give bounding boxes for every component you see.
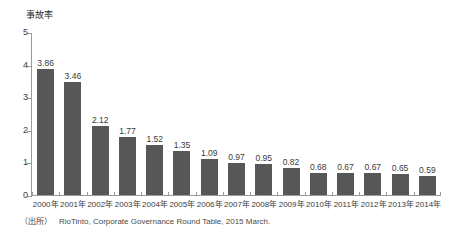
x-axis-tick-mark (114, 192, 115, 196)
x-axis-label: 2012年 (360, 199, 387, 210)
bar-value-label: 0.67 (365, 162, 382, 172)
source-text: RioTinto, Corporate Governance Round Tab… (59, 217, 270, 226)
bar (92, 126, 109, 195)
x-axis-label: 2008年 (251, 199, 278, 210)
x-axis-tick (87, 192, 114, 196)
x-axis-tick (196, 192, 223, 196)
bar-value-label: 0.95 (255, 153, 272, 163)
x-axis-tick (305, 192, 332, 196)
bar-value-label: 0.82 (283, 157, 300, 167)
bar-slot: 0.95 (250, 33, 277, 195)
bar-slot: 0.82 (277, 33, 304, 195)
bar-slot: 0.67 (332, 33, 359, 195)
bar-value-label: 1.35 (174, 140, 191, 150)
bar (37, 69, 54, 195)
x-axis-tick-mark (277, 192, 278, 196)
y-axis-tick-label: 0 (23, 190, 28, 201)
bar (283, 168, 300, 195)
y-axis-tick: 0 (31, 196, 36, 197)
x-axis-label: 2000年 (32, 199, 59, 210)
bar (201, 159, 218, 195)
x-axis-tick-mark (59, 192, 60, 196)
x-axis-tick (114, 192, 141, 196)
bar (119, 137, 136, 195)
x-axis-tick-mark (141, 192, 142, 196)
bar-value-label: 1.77 (119, 126, 136, 136)
y-axis-tick-label: 4 (23, 60, 28, 71)
x-axis-label: 2013年 (387, 199, 414, 210)
bar (228, 163, 245, 195)
bar-value-label: 1.09 (201, 148, 218, 158)
bar-value-label: 0.59 (419, 165, 436, 175)
bar-slot: 0.97 (223, 33, 250, 195)
bar-slot: 0.67 (359, 33, 386, 195)
x-axis-label: 2005年 (169, 199, 196, 210)
x-axis-tick (59, 192, 86, 196)
x-axis-tick (414, 192, 441, 196)
source-label: （出所） (20, 216, 52, 228)
source-note: （出所）RioTinto, Corporate Governance Round… (20, 216, 270, 228)
x-axis-tick-mark (332, 192, 333, 196)
x-axis-tick-mark (414, 192, 415, 196)
bar-slot: 3.46 (59, 33, 86, 195)
x-axis-tick-mark (250, 192, 251, 196)
plot-area: 543210 3.863.462.121.771.521.351.090.970… (31, 33, 441, 196)
y-axis-tick-label: 2 (23, 125, 28, 136)
x-axis-tick (386, 192, 413, 196)
bar (146, 145, 163, 195)
bar-slot: 0.68 (305, 33, 332, 195)
chart-screenshot: 事故率 543210 3.863.462.121.771.521.351.090… (0, 0, 449, 243)
x-axis-label: 2004年 (141, 199, 168, 210)
x-axis-label: 2014年 (415, 199, 442, 210)
bar-slot: 2.12 (87, 33, 114, 195)
y-axis-tick-label: 5 (23, 27, 28, 38)
x-axis-tick-mark (223, 192, 224, 196)
x-axis-tick-mark (87, 192, 88, 196)
x-axis-tick-mark (440, 192, 441, 196)
x-axis-labels: 2000年2001年2002年2003年2004年2005年2006年2007年… (32, 199, 442, 210)
bar-value-label: 1.52 (146, 134, 163, 144)
x-axis-tick (277, 192, 304, 196)
bar-slot: 0.59 (414, 33, 441, 195)
bar-slot: 0.65 (386, 33, 413, 195)
y-axis-tick-label: 3 (23, 92, 28, 103)
x-axis-label: 2006年 (196, 199, 223, 210)
x-axis-tick (332, 192, 359, 196)
x-axis-tick-mark (386, 192, 387, 196)
x-axis-tick-mark (305, 192, 306, 196)
bar-slot: 1.77 (114, 33, 141, 195)
bar (173, 151, 190, 195)
bar-value-label: 0.97 (228, 152, 245, 162)
x-axis-label: 2001年 (59, 199, 86, 210)
x-axis-tick (359, 192, 386, 196)
bar-value-label: 2.12 (92, 115, 109, 125)
x-axis-label: 2003年 (114, 199, 141, 210)
bar-value-label: 0.65 (392, 163, 409, 173)
x-axis-tick (223, 192, 250, 196)
bar-value-label: 3.86 (37, 58, 54, 68)
x-axis-tick (141, 192, 168, 196)
x-axis-label: 2009年 (278, 199, 305, 210)
x-axis-label: 2011年 (333, 199, 360, 210)
x-axis-label: 2010年 (305, 199, 332, 210)
x-axis-tick (250, 192, 277, 196)
bar-slot: 1.35 (168, 33, 195, 195)
bar-slot: 1.52 (141, 33, 168, 195)
x-axis-tick (32, 192, 59, 196)
x-axis-tick-mark (359, 192, 360, 196)
x-axis-ticks (32, 192, 441, 196)
bar-slot: 1.09 (196, 33, 223, 195)
bar-value-label: 0.68 (310, 162, 327, 172)
y-axis-tick-label: 1 (23, 157, 28, 168)
x-axis-tick-mark (168, 192, 169, 196)
y-axis-title: 事故率 (26, 10, 53, 21)
x-axis-label: 2002年 (87, 199, 114, 210)
bar (64, 82, 81, 195)
x-axis-tick-mark (196, 192, 197, 196)
x-axis-tick (168, 192, 195, 196)
bar-slot: 3.86 (32, 33, 59, 195)
x-axis-tick-mark (32, 192, 33, 196)
bar (255, 164, 272, 195)
bar-series: 3.863.462.121.771.521.351.090.970.950.82… (32, 33, 441, 195)
bar-value-label: 3.46 (65, 71, 82, 81)
